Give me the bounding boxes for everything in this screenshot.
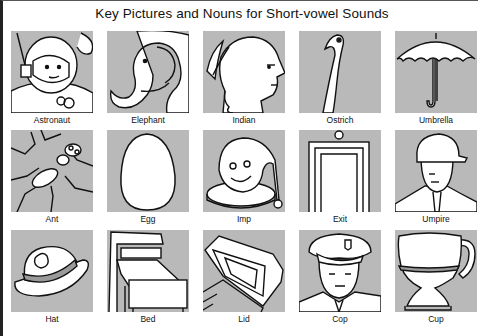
astronaut-icon [11,31,93,113]
worksheet-page: Key Pictures and Nouns for Short-vowel S… [0,0,478,336]
picture-caption: Ant [1,214,103,224]
picture-caption: Ostrich [289,115,391,125]
cup-icon [395,230,477,312]
bed-icon [107,230,189,312]
picture-caption: Hat [1,314,103,324]
picture-caption: Cup [385,314,478,324]
picture-caption: Indian [193,115,295,125]
picture-caption: Lid [193,314,295,324]
lid-icon [203,230,285,312]
picture-caption: Imp [193,214,295,224]
egg-icon [107,130,189,212]
ostrich-icon [299,31,381,113]
exit-door-icon [299,130,381,212]
page-title: Key Pictures and Nouns for Short-vowel S… [3,6,478,21]
picture-caption: Astronaut [1,115,103,125]
hat-icon [11,230,93,312]
indian-icon [203,31,285,113]
picture-caption: Exit [289,214,391,224]
picture-caption: Egg [97,214,199,224]
picture-caption: Elephant [97,115,199,125]
imp-icon [203,130,285,212]
cop-icon [299,230,381,312]
umbrella-icon [395,31,477,113]
picture-caption: Umpire [385,214,478,224]
ant-icon [11,130,93,212]
picture-caption: Cop [289,314,391,324]
umpire-icon [395,130,477,212]
picture-caption: Umbrella [385,115,478,125]
picture-caption: Bed [97,314,199,324]
elephant-icon [107,31,189,113]
